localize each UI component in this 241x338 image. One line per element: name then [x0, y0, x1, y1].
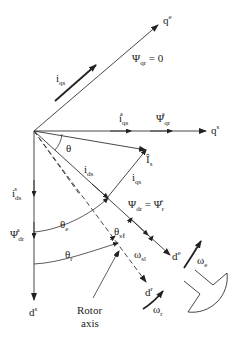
iqs-s-label: iqss [119, 110, 129, 127]
de-label: de [172, 249, 181, 262]
ids-marker [92, 184, 108, 198]
omega-e-label: ωe [197, 254, 207, 269]
vector-diagram: qe iqs Ψqr = 0 iqss Ψqrs qs θ Îs ids iqs… [0, 0, 241, 338]
ds-label: ds [29, 305, 38, 318]
psi-dr-equation-label: Ψdr = Ψ̂r [128, 198, 165, 213]
theta-r-label: θr [65, 248, 73, 263]
theta-arc [55, 134, 62, 150]
dr-label: dr [145, 285, 154, 298]
is-hat-vector [34, 131, 146, 150]
qe-label: qe [163, 13, 172, 26]
theta-e-label: θe [60, 218, 68, 233]
theta-sl-label: θsℓ [114, 225, 125, 240]
theta-label: θ [66, 142, 71, 154]
psi-dr-marker [130, 218, 148, 235]
rotor-axis-label-line2: axis [81, 317, 99, 329]
is-hat-label: Îs [146, 153, 153, 168]
qs-label: qs [211, 123, 220, 136]
rotor-axis-label-line1: Rotor [77, 304, 102, 316]
theta-e-arc [34, 198, 108, 232]
rotor-symbol [184, 270, 227, 312]
ids-s-label: idss [12, 185, 22, 202]
psi-dr-s-label: Ψdrs [10, 226, 25, 243]
omega-r-label: ωr [153, 303, 163, 318]
qe-axis [34, 25, 158, 131]
theta-r-arc [34, 243, 118, 264]
iqs-label: iqs [56, 72, 66, 87]
iqs-component-label: iqs [132, 171, 142, 186]
iqs-component [107, 150, 146, 198]
psi-qr-s-label: Ψqrs [156, 110, 171, 127]
rotor-axis-pointer [93, 252, 118, 298]
dr-axis-inner [34, 131, 80, 195]
omega-sl-label: ωsl [134, 248, 146, 263]
ids-label: ids [84, 163, 94, 178]
psi-qr-zero-label: Ψqr = 0 [132, 52, 164, 67]
